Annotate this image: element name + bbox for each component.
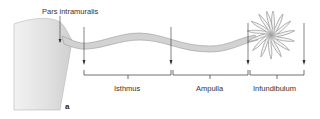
- uterus-wall: [14, 18, 72, 110]
- pars-intramuralis-label: Pars intramuralis: [42, 7, 98, 16]
- segment-brackets: [84, 70, 304, 79]
- isthmus-label: Isthmus: [114, 84, 140, 93]
- ampulla-label: Ampulla: [196, 84, 223, 93]
- fallopian-tube-diagram: [0, 0, 320, 119]
- fallopian-tube: [62, 33, 258, 52]
- infundibulum-label: Infundibulum: [253, 84, 296, 93]
- panel-letter: a: [65, 102, 69, 111]
